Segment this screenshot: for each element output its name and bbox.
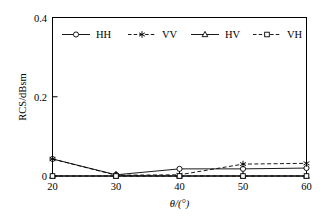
circle-marker	[73, 32, 78, 37]
legend-item-hh[interactable]: HH	[62, 29, 112, 40]
datapoint-hh-40	[177, 166, 182, 171]
datapoint-vv-60	[304, 160, 310, 167]
y-tickmarks	[53, 18, 58, 177]
datapoint-vh-30	[114, 174, 119, 179]
square-marker	[265, 32, 270, 37]
y-axis-title: RCS/dBsm	[17, 73, 28, 120]
legend-label-hh: HH	[96, 29, 112, 40]
y-tick-label-1: 0.2	[34, 92, 47, 103]
y-tick-label-0: 0	[42, 171, 47, 182]
legend-label-vh: VH	[287, 29, 303, 40]
legend-label-hv: HV	[225, 29, 241, 40]
triangle-marker	[202, 31, 208, 36]
x-tick-label-2: 40	[174, 181, 185, 192]
legend-label-vv: VV	[162, 29, 178, 40]
plot-frame	[53, 18, 307, 177]
x-tick-label-4: 60	[301, 181, 312, 192]
datapoint-vh-20	[50, 174, 55, 179]
datapoint-vh-50	[241, 174, 246, 179]
x-tick-label-0: 20	[47, 181, 58, 192]
data-series-layer	[50, 156, 310, 179]
x-tick-label-3: 50	[238, 181, 249, 192]
datapoint-vh-40	[177, 174, 182, 179]
x-axis-title: θ/(°)	[170, 198, 190, 210]
x-tick-label-1: 30	[111, 181, 122, 192]
legend-item-vh[interactable]: VH	[253, 29, 303, 40]
y-tick-label-2: 0.4	[34, 13, 48, 24]
chart-svg: 0 0.2 0.4 20 30 40 50 60 RCS/dBsm θ/(°) …	[0, 0, 325, 221]
legend-item-hv[interactable]: HV	[191, 29, 241, 40]
legend-item-vv[interactable]: VV	[128, 29, 178, 40]
chart-legend: HHVVHVVH	[62, 29, 303, 40]
datapoint-vh-60	[304, 174, 309, 179]
rcs-angle-chart: 0 0.2 0.4 20 30 40 50 60 RCS/dBsm θ/(°) …	[0, 0, 325, 221]
